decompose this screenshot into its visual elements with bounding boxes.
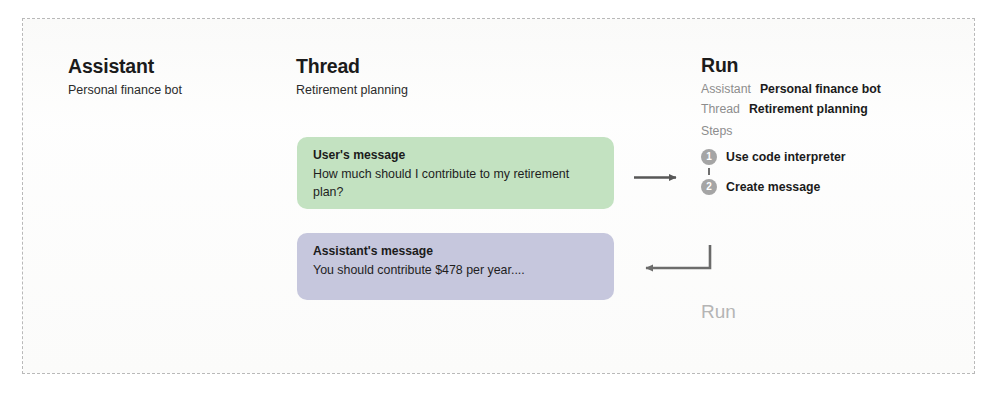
user-message-label: User's message <box>313 148 600 163</box>
run-panel-footer-label: Run <box>701 301 736 323</box>
step-label-1: Use code interpreter <box>726 150 846 164</box>
step-number-badge-1: 1 <box>701 149 717 165</box>
run-detail-row-assistant: Assistant Personal finance bot <box>701 82 931 96</box>
step-label-2: Create message <box>726 180 820 194</box>
thread-panel-title: Thread <box>296 56 360 77</box>
assistant-panel-title: Assistant <box>68 56 154 77</box>
run-panel-details: Assistant Personal finance bot Thread Re… <box>701 82 931 196</box>
run-detail-value-thread: Retirement planning <box>749 102 868 116</box>
step-connector-icon <box>701 166 717 177</box>
assistant-message-text: You should contribute $478 per year.... <box>313 262 600 280</box>
step-number-badge-2: 2 <box>701 179 717 195</box>
assistant-message-label: Assistant's message <box>313 244 600 259</box>
run-panel-title: Run <box>701 55 738 76</box>
diagram-canvas: Assistant Personal finance bot Thread Re… <box>0 0 999 401</box>
run-steps-label: Steps <box>701 124 931 138</box>
run-detail-key-assistant: Assistant <box>701 82 751 96</box>
message-bubble-user[interactable]: User's message How much should I contrib… <box>297 137 614 209</box>
thread-panel-subtitle: Retirement planning <box>296 84 408 98</box>
user-message-text: How much should I contribute to my retir… <box>313 166 600 202</box>
run-detail-row-thread: Thread Retirement planning <box>701 102 931 116</box>
assistant-panel-subtitle: Personal finance bot <box>68 84 182 98</box>
assistant-card-background <box>61 38 326 117</box>
message-bubble-assistant[interactable]: Assistant's message You should contribut… <box>297 233 614 300</box>
run-step-2[interactable]: 2 Create message <box>701 177 931 196</box>
run-detail-key-thread: Thread <box>701 102 740 116</box>
run-step-1[interactable]: 1 Use code interpreter <box>701 147 931 166</box>
run-detail-value-assistant: Personal finance bot <box>760 82 881 96</box>
